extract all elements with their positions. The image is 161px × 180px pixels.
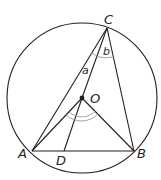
label-b: B xyxy=(137,146,146,161)
center-point-o xyxy=(80,96,85,101)
label-a: A xyxy=(17,146,27,161)
angle-o-arc-outer xyxy=(66,114,98,121)
label-angle-b: b xyxy=(103,45,110,58)
segment-od xyxy=(64,98,82,151)
label-c: C xyxy=(104,12,114,27)
segment-bc xyxy=(107,28,134,151)
label-angle-a: a xyxy=(82,64,89,77)
circle-geometry-diagram: C A B D O a b xyxy=(0,0,161,180)
angle-a-arc xyxy=(91,53,97,56)
segment-ac xyxy=(32,28,107,151)
label-d: D xyxy=(56,153,66,168)
segment-oa xyxy=(32,98,82,151)
label-o: O xyxy=(90,91,100,106)
angle-o-arc-inner xyxy=(69,111,96,117)
